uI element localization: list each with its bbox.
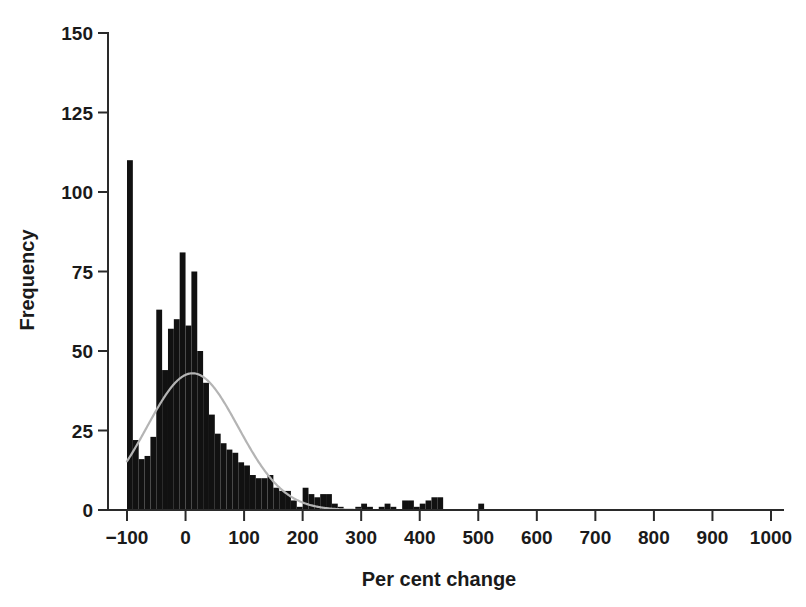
histogram-bar [238,462,244,510]
histogram-bar [291,500,297,510]
x-tick-label: 100 [228,527,260,548]
x-tick-label: 500 [462,527,494,548]
histogram-bar [139,459,145,510]
y-tick-label: 0 [82,500,93,521]
histogram-figure: 0255075100125150 −1000100200300400500600… [0,0,806,607]
y-tick-label: 50 [72,341,93,362]
histogram-bar [279,491,285,510]
y-tick-label: 25 [72,421,94,442]
x-tick-label: 700 [580,527,612,548]
y-tick-label: 125 [61,103,93,124]
histogram-bar [150,437,156,510]
x-tick-label: 1000 [750,527,792,548]
x-tick-label: 600 [521,527,553,548]
histogram-bar [180,252,186,510]
histogram-bars [127,160,484,510]
x-tick-label: −100 [106,527,149,548]
histogram-bar [437,497,443,510]
histogram-bar [426,500,432,510]
histogram-bar [203,383,209,510]
histogram-bar [145,456,151,510]
histogram-bar [256,478,262,510]
x-tick-label: 200 [287,527,319,548]
x-tick-label: 400 [404,527,436,548]
histogram-bar [408,500,414,510]
histogram-bar [174,319,180,510]
histogram-bar [232,453,238,510]
histogram-bar [303,488,309,510]
y-tick-label: 100 [61,182,93,203]
histogram-bar [191,272,197,511]
x-axis-ticks: −10001002003004005006007008009001000 [106,510,793,548]
histogram-bar [215,434,221,510]
chart-canvas: 0255075100125150 −1000100200300400500600… [0,0,806,607]
histogram-bar [168,329,174,510]
histogram-bar [227,450,233,510]
histogram-bar [186,326,192,510]
histogram-bar [308,494,314,510]
y-tick-label: 150 [61,23,93,44]
histogram-bar [221,443,227,510]
x-tick-label: 0 [180,527,191,548]
histogram-bar [402,500,408,510]
histogram-bar [262,478,268,510]
histogram-bar [431,497,437,510]
y-tick-label: 75 [72,262,94,283]
x-tick-label: 300 [345,527,377,548]
histogram-bar [273,488,279,510]
histogram-bar [250,475,256,510]
x-tick-label: 900 [697,527,729,548]
histogram-bar [209,415,215,510]
x-axis-title: Per cent change [362,568,517,590]
x-tick-label: 800 [638,527,670,548]
y-axis-title: Frequency [16,229,38,331]
y-axis-ticks: 0255075100125150 [61,23,108,521]
histogram-bar [244,465,250,510]
